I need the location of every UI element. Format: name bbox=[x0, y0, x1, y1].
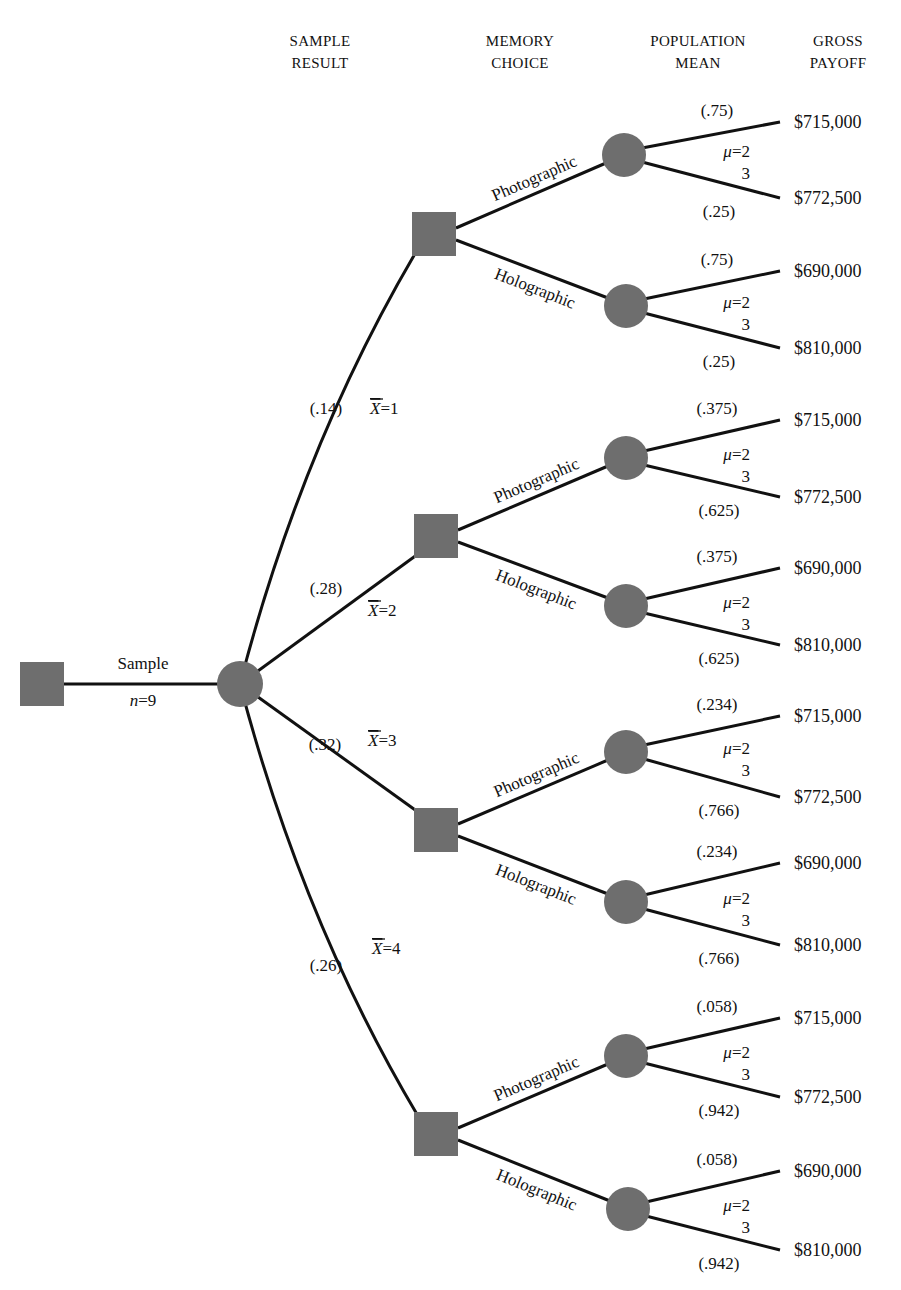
mu-2-edge bbox=[644, 271, 780, 299]
mu-2-edge bbox=[644, 716, 780, 745]
sample-result-xbar-label: X=3 bbox=[367, 731, 396, 750]
holographic-chance-node bbox=[604, 284, 648, 328]
photographic-label: Photographic bbox=[489, 151, 580, 205]
mu-3-label: 3 bbox=[742, 761, 751, 780]
gross-payoff-mu-2: $715,000 bbox=[794, 1008, 862, 1028]
gross-payoff-mu-3: $772,500 bbox=[794, 188, 862, 208]
mu-2-probability: (.375) bbox=[696, 547, 737, 566]
photographic-label: Photographic bbox=[491, 1052, 582, 1105]
sample-size-label: n=9 bbox=[130, 691, 157, 710]
mu-3-probability: (.25) bbox=[703, 202, 736, 221]
mu-3-probability: (.625) bbox=[698, 501, 739, 520]
mu-2-label: μ=2 bbox=[722, 593, 750, 612]
mu-2-label: μ=2 bbox=[722, 142, 750, 161]
photographic-label: Photographic bbox=[491, 454, 582, 507]
mu-3-edge bbox=[642, 162, 780, 198]
mu-3-label: 3 bbox=[742, 615, 751, 634]
mu-3-edge bbox=[644, 909, 780, 945]
mu-2-edge bbox=[644, 863, 780, 895]
mu-2-label: μ=2 bbox=[722, 293, 750, 312]
photographic-chance-node bbox=[604, 730, 648, 774]
gross-payoff-mu-3: $772,500 bbox=[794, 487, 862, 507]
mu-3-edge bbox=[644, 759, 780, 797]
holographic-chance-node bbox=[606, 1187, 650, 1231]
mu-3-edge bbox=[644, 613, 780, 645]
memory-decision-node bbox=[412, 212, 456, 256]
mu-2-probability: (.75) bbox=[701, 250, 734, 269]
gross-payoff-mu-2: $690,000 bbox=[794, 558, 862, 578]
mu-2-probability: (.234) bbox=[696, 695, 737, 714]
mu-3-label: 3 bbox=[742, 911, 751, 930]
mu-2-label: μ=2 bbox=[722, 889, 750, 908]
sample-result-xbar-label: X=4 bbox=[371, 939, 401, 958]
sample-result-probability: (.32) bbox=[309, 735, 342, 754]
mu-2-label: μ=2 bbox=[722, 445, 750, 464]
holographic-chance-node bbox=[604, 880, 648, 924]
sample-result-xbar-label: X=2 bbox=[367, 601, 396, 620]
sample-branch-label: Sample bbox=[118, 654, 169, 673]
mu-3-edge bbox=[644, 1063, 780, 1097]
gross-payoff-mu-3: $810,000 bbox=[794, 935, 862, 955]
photographic-chance-node bbox=[604, 1034, 648, 1078]
mu-3-edge bbox=[644, 465, 780, 497]
mu-2-edge bbox=[642, 122, 780, 148]
gross-payoff-mu-2: $690,000 bbox=[794, 261, 862, 281]
tree-edges bbox=[64, 122, 780, 1250]
mu-3-label: 3 bbox=[742, 1218, 751, 1237]
holographic-chance-node bbox=[604, 584, 648, 628]
mu-3-edge bbox=[644, 313, 780, 348]
sample-chance-node bbox=[217, 661, 263, 707]
gross-payoff-mu-3: $810,000 bbox=[794, 635, 862, 655]
photographic-label: Photographic bbox=[491, 748, 582, 801]
gross-payoff-mu-3: $772,500 bbox=[794, 1087, 862, 1107]
gross-payoff-mu-2: $715,000 bbox=[794, 410, 862, 430]
memory-decision-node bbox=[414, 808, 458, 852]
mu-3-label: 3 bbox=[742, 1065, 751, 1084]
mu-2-probability: (.234) bbox=[696, 842, 737, 861]
memory-decision-node bbox=[414, 514, 458, 558]
mu-3-probability: (.25) bbox=[703, 352, 736, 371]
mu-3-label: 3 bbox=[742, 315, 751, 334]
gross-payoff-mu-2: $690,000 bbox=[794, 1161, 862, 1181]
mu-2-edge bbox=[644, 420, 780, 451]
mu-2-probability: (.375) bbox=[696, 399, 737, 418]
mu-2-probability: (.058) bbox=[696, 997, 737, 1016]
mu-3-probability: (.942) bbox=[698, 1254, 739, 1273]
sample-result-probability: (.14) bbox=[310, 399, 343, 418]
gross-payoff-mu-3: $810,000 bbox=[794, 1240, 862, 1260]
photographic-chance-node bbox=[602, 133, 646, 177]
mu-2-edge bbox=[644, 568, 780, 599]
mu-2-probability: (.058) bbox=[696, 1150, 737, 1169]
gross-payoff-mu-3: $810,000 bbox=[794, 338, 862, 358]
sample-result-xbar-label: X=1 bbox=[369, 399, 398, 418]
mu-3-edge bbox=[646, 1216, 780, 1250]
gross-payoff-mu-2: $690,000 bbox=[794, 853, 862, 873]
mu-2-edge bbox=[646, 1171, 780, 1202]
sample-result-probability: (.28) bbox=[310, 579, 343, 598]
photographic-chance-node bbox=[604, 436, 648, 480]
mu-3-label: 3 bbox=[742, 164, 751, 183]
mu-2-label: μ=2 bbox=[722, 1043, 750, 1062]
mu-2-label: μ=2 bbox=[722, 739, 750, 758]
memory-decision-node bbox=[414, 1112, 458, 1156]
mu-3-probability: (.766) bbox=[698, 949, 739, 968]
mu-3-probability: (.625) bbox=[698, 649, 739, 668]
decision-tree: Samplen=9(.14)X=1Photographic(.75)(.25)μ… bbox=[0, 0, 901, 1290]
mu-2-label: μ=2 bbox=[722, 1196, 750, 1215]
root-decision-node bbox=[20, 662, 64, 706]
mu-3-probability: (.766) bbox=[698, 801, 739, 820]
mu-3-label: 3 bbox=[742, 467, 751, 486]
gross-payoff-mu-3: $772,500 bbox=[794, 787, 862, 807]
sample-result-probability: (.26) bbox=[310, 956, 343, 975]
mu-3-probability: (.942) bbox=[698, 1101, 739, 1120]
gross-payoff-mu-2: $715,000 bbox=[794, 112, 862, 132]
gross-payoff-mu-2: $715,000 bbox=[794, 706, 862, 726]
mu-2-edge bbox=[644, 1018, 780, 1049]
mu-2-probability: (.75) bbox=[701, 101, 734, 120]
